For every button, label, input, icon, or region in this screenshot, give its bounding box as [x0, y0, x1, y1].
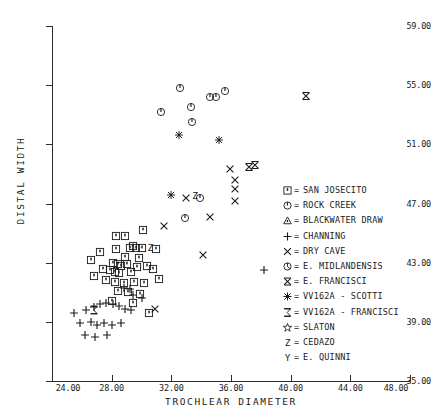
- data-point: [110, 277, 119, 286]
- x-tick-label: 48.00: [384, 383, 409, 393]
- legend-item-rock-creek[interactable]: =ROCK CREEK: [281, 198, 399, 213]
- legend-label: E. MIDLANDENSIS: [303, 262, 383, 271]
- legend-label: ROCK CREEK: [303, 201, 356, 210]
- x-tick-label: 36.00: [219, 383, 244, 393]
- legend-separator: =: [294, 232, 303, 241]
- x-tick-label: 28.00: [99, 383, 124, 393]
- data-point: [180, 214, 189, 223]
- legend-label: CEDAZO: [303, 338, 335, 347]
- x-tick-label: 32.00: [159, 383, 184, 393]
- data-point: [198, 251, 207, 260]
- y-tick: [46, 26, 52, 27]
- star-icon: [281, 323, 294, 332]
- x-tick: [410, 375, 411, 381]
- legend-separator: =: [294, 323, 303, 332]
- square-dot-icon: [281, 186, 294, 195]
- triangle-icon: [281, 216, 294, 225]
- legend-label: BLACKWATER DRAW: [303, 216, 383, 225]
- data-point: [215, 135, 224, 144]
- x-axis-line: [52, 381, 410, 382]
- data-point: [70, 308, 79, 317]
- data-point: [221, 87, 230, 96]
- data-point: [225, 165, 234, 174]
- data-point: [127, 267, 136, 276]
- data-point: [259, 266, 268, 275]
- data-point: [155, 274, 164, 283]
- x-tick: [112, 375, 113, 381]
- legend-item-e-quinni[interactable]: Y=E. QUINNI: [281, 350, 399, 365]
- plus-icon: [281, 232, 294, 241]
- data-point: [231, 175, 240, 184]
- legend-separator: =: [294, 338, 303, 347]
- data-point: [159, 221, 168, 230]
- data-point: Z: [192, 191, 198, 201]
- data-point: [231, 196, 240, 205]
- legend-item-dry-cave[interactable]: =DRY CAVE: [281, 244, 399, 259]
- legend-label: E. QUINNI: [303, 353, 351, 362]
- legend-item-e-midlandensis[interactable]: =E. MIDLANDENSIS: [281, 259, 399, 274]
- legend-item-channing[interactable]: =CHANNING: [281, 229, 399, 244]
- x-tick: [171, 375, 172, 381]
- legend-separator: =: [294, 262, 303, 271]
- data-point: [134, 254, 143, 263]
- data-point: [212, 93, 221, 102]
- data-point: [98, 264, 107, 273]
- Z-icon: Z: [281, 338, 294, 348]
- legend-label: VV162A - SCOTTI: [303, 292, 383, 301]
- data-point: [149, 264, 158, 273]
- data-point: [80, 331, 89, 340]
- y-tick: [46, 144, 52, 145]
- legend-label: VV162A - FRANCISCI: [303, 308, 399, 317]
- data-point: [112, 232, 121, 241]
- y-axis-title: DISTAL WIDTH: [15, 131, 26, 231]
- data-point: [138, 226, 147, 235]
- data-point: [107, 320, 116, 329]
- legend-item-blackwater-draw[interactable]: =BLACKWATER DRAW: [281, 213, 399, 228]
- Y-icon: Y: [281, 353, 294, 363]
- data-point: [103, 331, 112, 340]
- y-tick-label: 51.00: [387, 139, 431, 149]
- legend-item-vv162a-scotti[interactable]: =VV162A - SCOTTI: [281, 289, 399, 304]
- data-point: [76, 319, 85, 328]
- data-point: [301, 91, 310, 100]
- legend-separator: =: [294, 186, 303, 195]
- data-point: [112, 245, 121, 254]
- data-point: [89, 306, 98, 315]
- data-point: [206, 212, 215, 221]
- legend-label: E. FRANCISCI: [303, 277, 367, 286]
- y-tick: [46, 85, 52, 86]
- data-point: [115, 269, 124, 278]
- x-tick-label: 44.00: [338, 383, 363, 393]
- data-point: [121, 232, 130, 241]
- legend-item-e-francisci[interactable]: =E. FRANCISCI: [281, 274, 399, 289]
- data-point: [121, 252, 130, 261]
- x-tick: [291, 375, 292, 381]
- data-point: [231, 184, 240, 193]
- data-point: [140, 279, 149, 288]
- X-bar-icon: [281, 277, 294, 286]
- data-point: [89, 271, 98, 280]
- circle-dot-icon: [281, 201, 294, 210]
- data-point: [137, 243, 146, 252]
- data-point: [186, 103, 195, 112]
- legend-item-san-josecito[interactable]: =SAN JOSECITO: [281, 183, 399, 198]
- x-tick: [231, 375, 232, 381]
- data-point: [101, 276, 110, 285]
- legend: =SAN JOSECITO=ROCK CREEK=BLACKWATER DRAW…: [281, 183, 399, 365]
- legend-label: SAN JOSECITO: [303, 186, 367, 195]
- legend-separator: =: [294, 277, 303, 286]
- legend-separator: =: [294, 308, 303, 317]
- data-point: [188, 118, 197, 127]
- legend-item-vv162a-francisci[interactable]: =VV162A - FRANCISCI: [281, 305, 399, 320]
- legend-item-cedazo[interactable]: Z=CEDAZO: [281, 335, 399, 350]
- y-tick-label: 59.00: [387, 21, 431, 31]
- data-point: [127, 306, 136, 315]
- legend-item-slaton[interactable]: =SLATON: [281, 320, 399, 335]
- legend-separator: =: [294, 201, 303, 210]
- asterisk-icon: [281, 292, 294, 301]
- sigma-icon: [281, 308, 294, 317]
- y-tick: [46, 263, 52, 264]
- data-point: [150, 304, 159, 313]
- X-icon: [281, 247, 294, 256]
- data-point: [174, 131, 183, 140]
